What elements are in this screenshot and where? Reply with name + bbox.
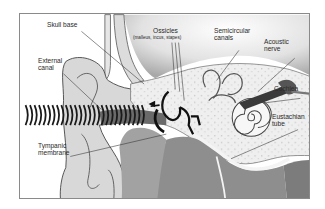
label-semicircular-line2: canals (214, 34, 233, 41)
label-tympanic-line2: membrane (38, 149, 70, 156)
diagram-frame: Skull base External canal Ossicles (mall… (19, 13, 310, 199)
label-ossicles-subtitle: (malleus, incus, stapes) (133, 35, 181, 40)
label-eustachian-line2: tube (272, 120, 285, 127)
label-ossicles: Ossicles (153, 27, 178, 34)
label-skull-base: Skull base (47, 21, 77, 28)
label-cochlea: Cochlea (274, 85, 298, 92)
label-acoustic-line2: nerve (264, 45, 281, 52)
label-external-canal-line2: canal (38, 64, 54, 71)
